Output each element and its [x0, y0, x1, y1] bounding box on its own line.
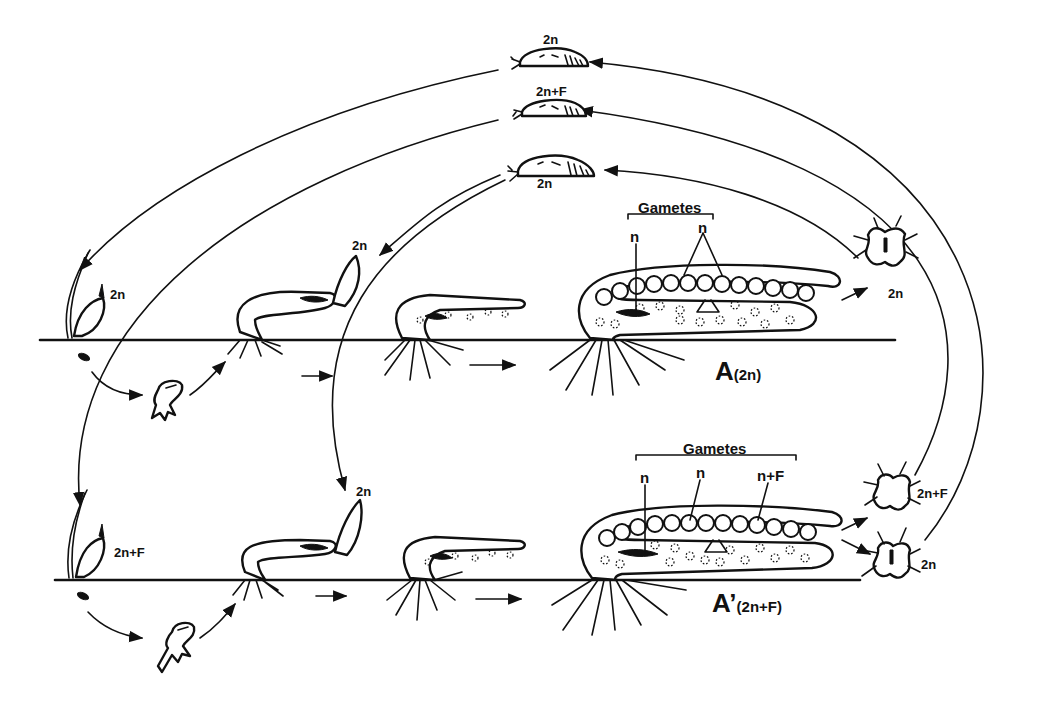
gamete-label-a-1: n: [630, 229, 639, 244]
life-cycle-diagram: 2n 2n+F 2n 2n 2n Gametes n n 2n A(2n) 2n…: [0, 0, 1060, 713]
settling-label-a-prime: 2n: [356, 485, 371, 498]
row-label-a-prime: A’(2n+F): [712, 590, 782, 616]
seed-stage-a: [66, 250, 142, 395]
developing-stage-a: [385, 295, 525, 380]
swimmer-label-2n-plus-f: 2n+F: [536, 85, 567, 98]
seed-stage-a-prime: [68, 490, 142, 638]
gametes-title-a-prime: Gametes: [683, 441, 746, 456]
seed-label-a: 2n: [110, 288, 125, 301]
seed-label-a-prime: 2n+F: [114, 546, 145, 559]
diagram-canvas: [0, 0, 1060, 713]
gamete-label-a-prime-3: n+F: [757, 468, 784, 483]
larva-label-a: 2n: [888, 287, 903, 300]
settling-label-a: 2n: [352, 239, 367, 252]
settling-stage-a: [228, 256, 359, 376]
larva-a-prime-2n-plus-f: [864, 462, 920, 510]
adult-colony-a: [550, 214, 867, 395]
row-letter-a: A: [715, 356, 734, 386]
gamete-label-a-prime-1: n: [640, 470, 649, 485]
row-ploidy-a-prime: (2n+F): [737, 598, 782, 615]
swimmer-2n-plus-f: [513, 100, 586, 119]
row-ploidy-a: (2n): [734, 366, 762, 383]
gamete-label-a-2: n: [698, 220, 707, 235]
juvenile-a: [152, 362, 225, 420]
swimmer-label-2n-third: 2n: [537, 177, 552, 190]
row-label-a: A(2n): [715, 358, 761, 384]
juvenile-a-prime: [158, 604, 235, 672]
row-letter-a-prime: A’: [712, 588, 737, 618]
adult-colony-a-prime: [552, 455, 870, 635]
gametes-title-a: Gametes: [638, 200, 701, 215]
larva-a-prime-2n: [862, 528, 920, 578]
developing-stage-a-prime: [387, 537, 525, 620]
cycle-arrows: [79, 62, 983, 540]
swimmer-2n-top: [511, 48, 588, 69]
swimmer-label-2n-top: 2n: [543, 33, 558, 46]
larva-label-a-prime-1: 2n+F: [917, 487, 948, 500]
larva-label-a-prime-2: 2n: [921, 558, 936, 571]
settling-stage-a-prime: [233, 500, 361, 600]
gamete-label-a-prime-2: n: [696, 465, 705, 480]
